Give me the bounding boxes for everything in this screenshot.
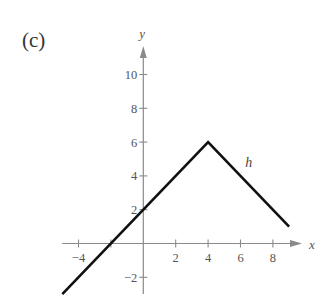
x-tick-label: 8 (270, 251, 276, 265)
y-tick-label: −2 (124, 271, 137, 285)
y-tick-label: 10 (125, 68, 138, 82)
x-axis-label: x (308, 237, 315, 252)
y-tick-label: 4 (131, 169, 138, 183)
x-axis-arrow-icon (290, 240, 302, 247)
x-tick-label: 4 (205, 251, 212, 265)
curve-label: h (245, 155, 252, 170)
x-tick-label: 2 (173, 251, 179, 265)
chart: xy−42468−2246810h (0, 0, 330, 306)
x-tick-label: 6 (237, 251, 243, 265)
series-line-h (62, 142, 289, 294)
y-axis-label: y (137, 26, 145, 41)
y-tick-label: 6 (131, 136, 137, 150)
x-tick-label: −4 (72, 251, 86, 265)
y-tick-label: 8 (131, 102, 137, 116)
y-axis-arrow-icon (140, 46, 147, 58)
